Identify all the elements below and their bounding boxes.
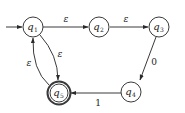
transition-q4-q5: 1 [71, 93, 121, 108]
state-q1: q 1 [23, 17, 43, 37]
transition-q3-q4: 0 [140, 37, 157, 80]
state-q3: q 3 [149, 17, 169, 37]
state-letter-q1: q [27, 21, 33, 32]
state-q5-accept: q 5 [48, 82, 71, 105]
edge-q5-q1 [33, 38, 49, 85]
edge-label-q3-q4: 0 [151, 57, 157, 67]
edge-label-q1-q2: ε [64, 14, 69, 24]
transition-q1-q2: ε [43, 14, 88, 27]
state-letter-q3: q [153, 21, 159, 32]
state-q2: q 2 [89, 17, 109, 37]
state-letter-q2: q [93, 21, 99, 32]
state-sub-q5: 5 [60, 92, 64, 99]
state-sub-q1: 1 [34, 26, 38, 33]
state-sub-q2: 2 [100, 26, 104, 33]
state-sub-q3: 3 [160, 26, 164, 33]
state-sub-q4: 4 [132, 91, 136, 98]
automaton-diagram: ε ε 0 1 ε ε q 1 q 2 q 3 q [0, 0, 185, 113]
state-q4: q 4 [121, 82, 141, 102]
transition-q1-q5: ε [40, 35, 63, 80]
state-letter-q5: q [53, 87, 59, 98]
edge-label-q4-q5: 1 [95, 98, 101, 108]
transition-q2-q3: ε [110, 14, 148, 27]
edge-q1-q5 [40, 35, 58, 80]
edge-label-q1-q5: ε [58, 49, 63, 59]
state-letter-q4: q [125, 86, 131, 97]
edge-label-q5-q1: ε [27, 58, 32, 68]
edge-label-q2-q3: ε [124, 14, 129, 24]
transition-q5-q1: ε [27, 38, 49, 85]
